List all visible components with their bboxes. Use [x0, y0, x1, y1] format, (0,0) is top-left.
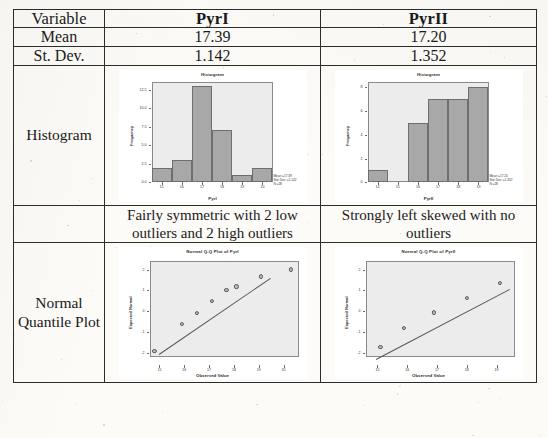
histogram-bar [368, 170, 388, 182]
x-tick-mark [259, 365, 260, 367]
scan-speck [500, 398, 501, 399]
y-tick-mark [147, 290, 149, 291]
x-tick-label: 15 [152, 368, 166, 372]
qq-chart-pyr1: Normal Q-Q Plot of PyrI-2-10121516171819… [119, 247, 307, 379]
y-tick-mark [147, 270, 149, 271]
x-tick-label: 17 [202, 368, 216, 372]
y-tick-mark [149, 127, 151, 128]
st-dev-value-pyr2: 1.352 [321, 47, 537, 66]
x-tick-label: 20 [277, 368, 291, 372]
x-tick-mark [497, 365, 498, 367]
x-tick-mark [209, 365, 210, 367]
histogram-bar [152, 168, 172, 183]
y-tick-mark [149, 108, 151, 109]
histogram-chart-pyr1: Histogram0.02.55.07.510.012.515161718192… [119, 70, 307, 202]
scan-speck [162, 411, 163, 412]
chart-title: Normal Q-Q Plot of PyrII [335, 249, 523, 254]
table-row-mean: Mean 17.39 17.20 [14, 28, 537, 47]
scan-speck [256, 404, 257, 405]
x-tick-mark [184, 365, 185, 367]
x-axis-label: Observed Value [335, 373, 523, 378]
scan-speck [76, 404, 77, 405]
x-tick-mark [159, 365, 160, 367]
y-tick-mark [147, 353, 149, 354]
scan-speck [540, 435, 541, 436]
y-tick-mark [363, 332, 365, 333]
x-tick-label: 16 [177, 368, 191, 372]
table-row-histogram: Histogram Histogram0.02.55.07.510.012.51… [14, 66, 537, 206]
x-tick-mark [407, 365, 408, 367]
y-tick-label: 6 [347, 109, 363, 113]
y-tick-label: 2 [129, 268, 145, 272]
x-tick-label: 18 [460, 368, 474, 372]
histogram-bar [232, 175, 252, 182]
mean-value-pyr2: 17.20 [321, 28, 537, 47]
header-variable-label: Variable [14, 10, 105, 28]
y-tick-label: 10.0 [131, 106, 147, 110]
y-tick-mark [363, 270, 365, 271]
scan-speck [399, 386, 400, 387]
y-tick-mark [149, 145, 151, 146]
histogram-bar [408, 123, 428, 183]
table-row-header: Variable PyrI PyrII [14, 10, 537, 28]
y-tick-label: -2 [129, 351, 145, 355]
x-tick-label: 15 [155, 185, 169, 189]
scan-speck [364, 405, 365, 406]
x-tick-label: 18 [227, 368, 241, 372]
y-tick-mark [365, 182, 367, 183]
annotation-n: N =28 [490, 182, 523, 186]
scan-speck [478, 402, 479, 403]
y-tick-mark [365, 111, 367, 112]
x-tick-label: 20 [255, 185, 269, 189]
y-tick-label: 1 [345, 288, 361, 292]
x-tick-mark [378, 182, 379, 184]
y-tick-mark [363, 311, 365, 312]
y-tick-label: 2.5 [131, 162, 147, 166]
y-tick-label: -2 [345, 351, 361, 355]
statistics-annotation: Mean =17.20Std. Dev. =1.352N =28 [490, 174, 523, 187]
annotation-n: N =28 [274, 182, 307, 186]
y-tick-label: 0.0 [131, 180, 147, 184]
table-row-st-dev: St. Dev. 1.142 1.352 [14, 47, 537, 66]
statistics-annotation: Mean =17.39Std. Dev. =1.142N =28 [274, 174, 307, 187]
y-tick-mark [365, 159, 367, 160]
chart-title: Normal Q-Q Plot of PyrI [119, 249, 307, 254]
y-tick-label: 1 [129, 288, 145, 292]
table-row-normal-quantile-plot: Normal Quantile Plot Normal Q-Q Plot of … [14, 243, 537, 383]
x-tick-label: 19 [471, 185, 485, 189]
y-tick-mark [365, 135, 367, 136]
scan-speck [2, 400, 3, 401]
x-tick-mark [222, 182, 223, 184]
x-tick-label: 16 [400, 368, 414, 372]
row-label-mean: Mean [14, 28, 105, 47]
header-col-pyr2: PyrII [321, 10, 537, 28]
x-tick-label: 15 [391, 185, 405, 189]
y-tick-mark [365, 87, 367, 88]
x-tick-mark [478, 182, 479, 184]
x-tick-mark [458, 182, 459, 184]
x-tick-mark [202, 182, 203, 184]
histogram-bar [252, 168, 272, 183]
y-tick-mark [149, 182, 151, 183]
qqplot-cell-pyr2: Normal Q-Q Plot of PyrII-2-1012151617181… [321, 243, 537, 383]
x-tick-mark [284, 365, 285, 367]
y-tick-label: -1 [345, 330, 361, 334]
y-tick-mark [149, 90, 151, 91]
x-tick-mark [234, 365, 235, 367]
statistics-comparison-table: Variable PyrI PyrII Mean 17.39 17.20 St.… [13, 9, 537, 383]
x-tick-mark [437, 365, 438, 367]
x-axis-label: PyrI [119, 196, 307, 201]
row-label-normal-quantile-plot: Normal Quantile Plot [14, 243, 105, 383]
x-tick-mark [162, 182, 163, 184]
scan-speck [400, 385, 401, 386]
mean-value-pyr1: 17.39 [105, 28, 321, 47]
x-axis-label: Observed Value [119, 373, 307, 378]
x-tick-label: 16 [411, 185, 425, 189]
qq-chart-pyr2: Normal Q-Q Plot of PyrII-2-1012151617181… [335, 247, 523, 379]
histogram-cell-pyr2: Histogram02468141516171819FrequencyPyrII… [321, 66, 537, 206]
x-tick-label: 17 [431, 185, 445, 189]
y-axis-label: Expected Normal [344, 297, 349, 330]
x-tick-label: 18 [451, 185, 465, 189]
scan-speck [397, 393, 398, 394]
histogram-bar [448, 99, 468, 182]
